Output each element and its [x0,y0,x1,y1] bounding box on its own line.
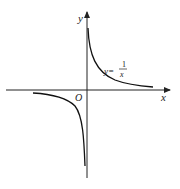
equation-numerator: 1 [122,60,126,69]
y-axis-label: y [77,12,83,24]
hyperbola-diagram: y x O y= 1 x [0,0,180,189]
equation-denominator: x [119,70,124,79]
origin-label: O [75,92,82,103]
equation-lhs: y= [103,66,114,76]
x-axis-label: x [160,91,166,103]
curve-branch-third-quadrant [33,93,85,166]
